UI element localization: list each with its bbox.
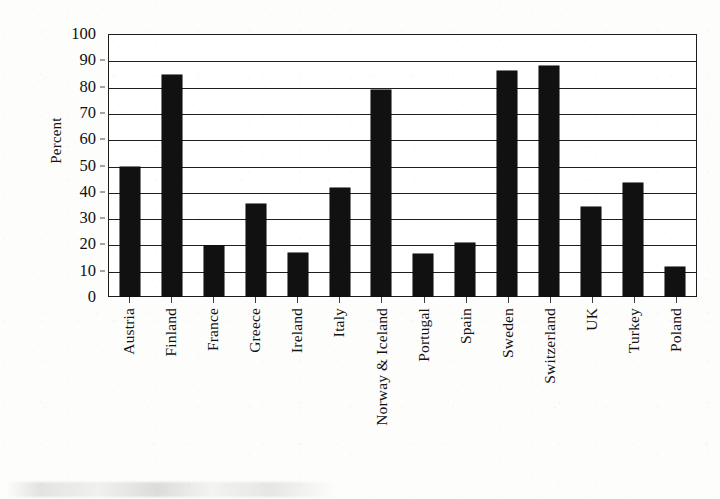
bar — [246, 204, 266, 296]
y-tick-mark — [100, 218, 105, 219]
bar-slot — [402, 35, 444, 296]
x-category-label: Greece — [248, 308, 264, 353]
y-tick-mark — [100, 60, 105, 61]
bar-slot — [444, 35, 486, 296]
x-category-label: Turkey — [626, 308, 642, 353]
y-tick-mark — [100, 139, 105, 140]
x-label-slot: Turkey — [613, 304, 655, 484]
bar — [413, 254, 433, 296]
x-tick-mark — [297, 297, 298, 303]
bar-slot — [319, 35, 361, 296]
y-tick-label: 20 — [80, 236, 97, 253]
bar-slot — [235, 35, 277, 296]
x-category-label: Norway & Iceland — [374, 308, 390, 426]
y-tick-label: 100 — [71, 26, 96, 43]
x-label-slot: Poland — [655, 304, 697, 484]
x-label-slot: Portugal — [403, 304, 445, 484]
bar-slot — [109, 35, 151, 296]
y-tick-mark — [100, 86, 105, 87]
bar — [539, 66, 559, 296]
bar — [330, 188, 350, 296]
x-category-label: Austria — [121, 308, 137, 355]
x-tick-mark — [255, 297, 256, 303]
x-category-label: UK — [584, 308, 600, 331]
y-tick-mark — [100, 191, 105, 192]
y-tick-label: 80 — [80, 78, 97, 95]
x-tick-mark — [466, 297, 467, 303]
bar — [162, 75, 182, 296]
bar-slot — [486, 35, 528, 296]
y-tick-mark — [100, 112, 105, 113]
bar-slot — [654, 35, 696, 296]
x-tick-mark — [592, 297, 593, 303]
x-label-slot: Spain — [445, 304, 487, 484]
bar-chart-figure: Percent 0102030405060708090100 AustriaFi… — [0, 0, 720, 499]
bar-slot — [277, 35, 319, 296]
x-tick-mark — [424, 297, 425, 303]
x-category-label: Italy — [332, 308, 348, 337]
bar — [371, 90, 391, 296]
x-label-slot: Greece — [234, 304, 276, 484]
bar — [623, 183, 643, 296]
bar — [120, 167, 140, 296]
x-axis-category-labels: AustriaFinlandFranceGreeceIrelandItalyNo… — [108, 304, 697, 484]
bar — [288, 253, 308, 296]
x-tick-mark — [171, 297, 172, 303]
x-category-label: Spain — [458, 308, 474, 344]
y-tick-mark — [100, 165, 105, 166]
bar-slot — [528, 35, 570, 296]
x-tick-mark — [213, 297, 214, 303]
x-category-label: Ireland — [290, 308, 306, 353]
bar-series — [109, 35, 696, 296]
x-category-label: Switzerland — [542, 308, 558, 384]
x-category-label: France — [205, 308, 221, 351]
x-label-slot: Italy — [318, 304, 360, 484]
y-tick-label: 10 — [80, 262, 97, 279]
x-tick-mark — [676, 297, 677, 303]
y-tick-label: 30 — [80, 210, 97, 227]
y-tick-label: 70 — [80, 105, 97, 122]
plot-area — [108, 34, 697, 297]
bar-slot — [193, 35, 235, 296]
x-tick-mark — [339, 297, 340, 303]
bar — [665, 267, 685, 296]
y-tick-label: 40 — [80, 184, 97, 201]
x-category-label: Finland — [163, 308, 179, 356]
bar-slot — [361, 35, 403, 296]
x-tick-mark — [508, 297, 509, 303]
x-label-slot: Switzerland — [529, 304, 571, 484]
x-category-label: Sweden — [500, 308, 516, 358]
bar-slot — [570, 35, 612, 296]
x-label-slot: Norway & Iceland — [360, 304, 402, 484]
x-tick-mark — [381, 297, 382, 303]
x-tick-mark — [129, 297, 130, 303]
bar — [497, 71, 517, 296]
x-label-slot: Austria — [108, 304, 150, 484]
x-label-slot: Ireland — [276, 304, 318, 484]
bar-slot — [612, 35, 654, 296]
bar — [455, 243, 475, 296]
bar-slot — [151, 35, 193, 296]
y-tick-label: 50 — [80, 157, 97, 174]
x-category-label: Portugal — [416, 308, 432, 362]
y-tick-label: 60 — [80, 131, 97, 148]
bar — [204, 246, 224, 296]
x-category-label: Poland — [668, 308, 684, 352]
x-tick-mark — [634, 297, 635, 303]
y-tick-mark — [100, 244, 105, 245]
y-tick-label: 90 — [80, 52, 97, 69]
x-label-slot: France — [192, 304, 234, 484]
x-label-slot: Sweden — [487, 304, 529, 484]
x-label-slot: UK — [571, 304, 613, 484]
y-axis-tick-labels: 0102030405060708090100 — [0, 0, 108, 499]
x-tick-mark — [550, 297, 551, 303]
x-axis-ticks — [108, 297, 697, 304]
bar — [581, 207, 601, 296]
y-tick-label: 0 — [88, 289, 96, 306]
x-label-slot: Finland — [150, 304, 192, 484]
y-tick-mark — [100, 270, 105, 271]
